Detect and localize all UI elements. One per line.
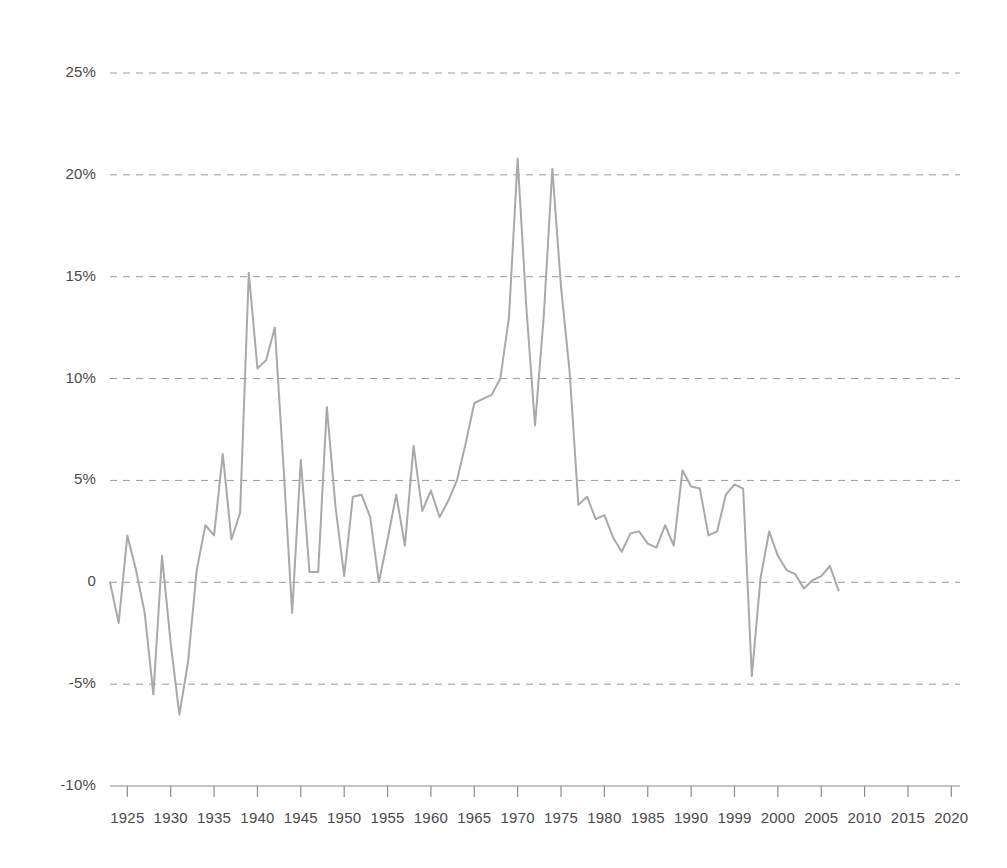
x-axis-ticks [127, 786, 951, 797]
y-axis-tick-label: 25% [65, 63, 96, 80]
gridlines-group [110, 73, 960, 684]
series-line [110, 159, 839, 715]
y-axis-tick-label: -10% [60, 776, 96, 793]
chart-container: -10%-5%05%10%15%20%25% 19251930193519401… [0, 0, 1007, 868]
y-axis-tick-label: -5% [69, 674, 96, 691]
y-axis-tick-label: 0 [87, 572, 96, 589]
x-axis-tick-label: 2020 [921, 809, 981, 826]
y-axis-tick-label: 20% [65, 165, 96, 182]
data-line-series [110, 159, 839, 715]
y-axis-tick-label: 15% [65, 267, 96, 284]
y-axis-tick-label: 5% [74, 470, 96, 487]
y-axis-tick-label: 10% [65, 369, 96, 386]
line-chart-plot [0, 0, 1007, 868]
